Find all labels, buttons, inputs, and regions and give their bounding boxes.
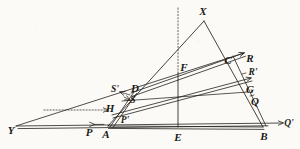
baseline-band-top: [16, 123, 283, 126]
arrow-toward-Sprime: [120, 92, 130, 95]
point-label-C: C: [224, 55, 231, 66]
band-AB-lower: [109, 128, 265, 129]
point-label-B: B: [260, 131, 267, 142]
point-label-Y: Y: [8, 125, 15, 136]
point-label-Q: Q: [251, 96, 259, 107]
point-label-R-prime: R': [249, 68, 258, 78]
point-label-F: F: [180, 62, 187, 73]
triangle-side-left-AX: [108, 21, 204, 126]
point-label-E: E: [174, 132, 181, 143]
point-label-P: P: [86, 127, 93, 138]
point-label-G: G: [246, 84, 254, 95]
point-label-Q-prime: Q': [284, 119, 294, 129]
figure-canvas: Y P A P' H S S' D F X C R R' G Q E B Q': [0, 0, 300, 149]
point-label-R: R: [246, 53, 253, 64]
point-label-D: D: [131, 83, 139, 94]
point-label-S-prime: S': [111, 85, 119, 95]
point-label-S: S: [130, 96, 135, 106]
tick-on-BC-upper: [242, 73, 246, 74]
point-label-A: A: [102, 129, 109, 140]
point-label-H: H: [106, 103, 115, 114]
point-label-P-prime: P': [121, 116, 129, 126]
ray-Y-to-R: [16, 53, 244, 126]
point-label-X: X: [199, 6, 206, 17]
